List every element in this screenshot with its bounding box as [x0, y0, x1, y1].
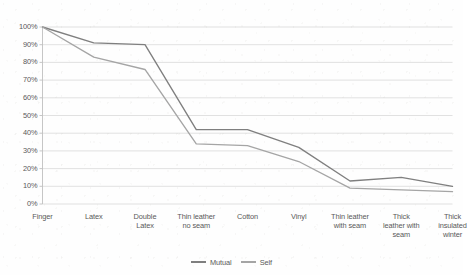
- y-axis-tick-label: 50%: [2, 111, 38, 120]
- x-axis-tick-label-line: Cotton: [222, 212, 274, 221]
- chart-legend: MutualSelf: [0, 255, 463, 269]
- x-axis-tick-label-line: leather with: [375, 221, 427, 230]
- y-axis-tick-label: 40%: [2, 128, 38, 137]
- x-axis-tick-label: Thickleather withseam: [375, 212, 427, 240]
- legend-line-swatch: [241, 261, 256, 262]
- x-axis-tick-label-line: winter: [427, 230, 472, 239]
- x-axis-tick-label-line: Thin leather: [324, 212, 376, 221]
- y-axis-tick-label: 60%: [2, 93, 38, 102]
- series-line-mutual: [43, 27, 453, 186]
- x-axis-tick-label-line: Thin leather: [170, 212, 222, 221]
- legend-item-self[interactable]: Self: [241, 258, 272, 267]
- gridlines: [43, 27, 453, 204]
- legend-label: Mutual: [210, 258, 232, 267]
- y-axis-tick-label: 10%: [2, 181, 38, 190]
- legend-label: Self: [260, 258, 272, 267]
- x-axis-tick-label: DoubleLatex: [119, 212, 171, 230]
- x-axis-tick-label: Thin leatherno seam: [170, 212, 222, 230]
- x-axis-tick-label-line: Thick: [427, 212, 472, 221]
- x-axis-tick-label-line: no seam: [170, 221, 222, 230]
- x-axis-tick-label-line: insulated: [427, 221, 472, 230]
- x-axis-tick-label: Thin leatherwith seam: [324, 212, 376, 230]
- y-axis-tick-label: 20%: [2, 164, 38, 173]
- y-axis-tick-label: 0%: [2, 199, 38, 208]
- y-axis-tick-label: 30%: [2, 146, 38, 155]
- x-axis-tick-label-line: with seam: [324, 221, 376, 230]
- axis-lines: [40, 27, 43, 204]
- y-axis-tick-label: 100%: [2, 22, 38, 31]
- x-axis-tick-label: Finger: [17, 212, 69, 221]
- x-axis-tick-label: Thickinsulatedwinter: [427, 212, 472, 240]
- x-axis-tick-label-line: Thick: [375, 212, 427, 221]
- x-axis-tick-label-line: seam: [375, 230, 427, 239]
- x-axis-tick-label: Vinyl: [273, 212, 325, 221]
- legend-item-mutual[interactable]: Mutual: [191, 258, 232, 267]
- x-axis-tick-label: Cotton: [222, 212, 274, 221]
- series-line-self: [43, 27, 453, 192]
- x-axis-tick-label-line: Vinyl: [273, 212, 325, 221]
- y-axis-tick-label: 80%: [2, 57, 38, 66]
- y-axis-tick-label: 70%: [2, 75, 38, 84]
- x-axis-tick-label: Latex: [68, 212, 120, 221]
- legend-line-swatch: [191, 261, 206, 262]
- x-axis-tick-label-line: Latex: [68, 212, 120, 221]
- series-lines: [43, 27, 453, 192]
- x-axis-tick-label-line: Finger: [17, 212, 69, 221]
- x-axis-tick-label-line: Double: [119, 212, 171, 221]
- x-axis-tick-label-line: Latex: [119, 221, 171, 230]
- y-axis-tick-label: 90%: [2, 40, 38, 49]
